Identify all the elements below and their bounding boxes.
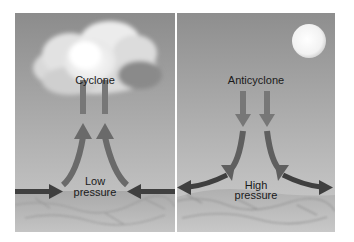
high-pressure-label-line2: pressure — [231, 190, 281, 201]
cyclone-illustration — [15, 13, 175, 232]
cyclone-panel: Cyclone Low pressure — [15, 13, 175, 232]
anticyclone-label: Anticyclone — [221, 75, 291, 86]
anticyclone-panel: Anticyclone High pressure — [177, 13, 335, 232]
sun-icon — [292, 24, 326, 58]
cyclone-label: Cyclone — [70, 75, 120, 86]
low-pressure-label-line2: pressure — [70, 187, 120, 198]
